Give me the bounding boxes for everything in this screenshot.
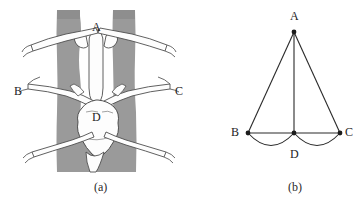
figure-container: A B C D (a)	[0, 0, 363, 207]
panel-b-caption: (b)	[288, 180, 302, 195]
panel-a-anatomical-diagram: A B C D (a)	[0, 0, 200, 207]
panel-a-label-d: D	[92, 111, 101, 123]
arc-d-c	[294, 133, 340, 146]
panel-a-label-a: A	[92, 21, 101, 33]
vertex-dot-d	[292, 131, 297, 136]
panel-a-label-c: C	[175, 85, 183, 97]
vertex-dot-a	[292, 30, 297, 35]
edge-a-c	[294, 32, 340, 133]
arc-b-d	[248, 133, 294, 146]
panel-a-label-b: B	[14, 85, 22, 97]
panel-b-label-b: B	[231, 126, 239, 138]
panel-b-label-c: C	[345, 126, 353, 138]
edge-a-b	[248, 32, 294, 133]
panel-b-artwork	[190, 0, 363, 207]
vertex-dot-b	[246, 131, 251, 136]
panel-b-label-d: D	[290, 148, 299, 160]
central-trunk-vessel	[89, 30, 103, 102]
panel-b-label-a: A	[290, 10, 299, 22]
panel-b-schematic-diagram: A B C D (b)	[190, 0, 363, 207]
vertex-dot-c	[338, 131, 343, 136]
panel-a-caption: (a)	[94, 180, 107, 195]
